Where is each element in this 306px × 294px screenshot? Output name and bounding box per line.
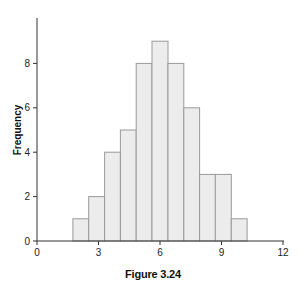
x-tick-label: 6 — [157, 247, 163, 258]
histogram-bar — [73, 219, 89, 241]
y-tick-label: 2 — [24, 191, 30, 202]
x-axis-ticks: 036912 — [34, 241, 289, 258]
x-tick-label: 12 — [277, 247, 289, 258]
x-tick-label: 3 — [96, 247, 102, 258]
histogram-chart: 02468 036912 Frequency — [0, 0, 306, 294]
y-tick-label: 4 — [24, 147, 30, 158]
histogram-bar — [200, 174, 216, 241]
histogram-bar — [215, 174, 231, 241]
y-tick-label: 8 — [24, 58, 30, 69]
y-tick-label: 0 — [24, 236, 30, 247]
histogram-bar — [231, 219, 247, 241]
histogram-bar — [152, 41, 168, 241]
histogram-bar — [120, 130, 136, 241]
y-axis-ticks: 02468 — [24, 58, 37, 247]
histogram-bar — [105, 152, 121, 241]
x-tick-label: 0 — [34, 247, 40, 258]
y-tick-label: 6 — [24, 102, 30, 113]
y-axis-label: Frequency — [12, 104, 23, 155]
histogram-bar — [89, 197, 105, 241]
figure-caption: Figure 3.24 — [0, 268, 306, 280]
histogram-bar — [184, 108, 200, 241]
x-tick-label: 9 — [219, 247, 225, 258]
histogram-bar — [168, 63, 184, 241]
histogram-bar — [136, 63, 152, 241]
histogram-bars — [73, 41, 247, 241]
